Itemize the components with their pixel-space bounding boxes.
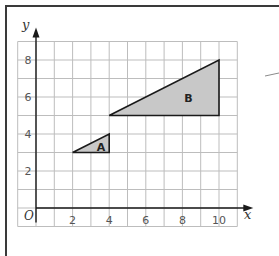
y-tick-label: 2	[25, 165, 32, 178]
x-axis-label: x	[244, 207, 251, 222]
y-axis-label: y	[22, 17, 29, 32]
x-tick-label: 2	[69, 214, 76, 227]
y-tick-label: 8	[25, 54, 32, 67]
triangle-label-b: B	[184, 92, 192, 105]
y-tick-label: 4	[25, 128, 32, 141]
x-tick-label: 10	[212, 214, 226, 227]
x-tick-label: 4	[106, 214, 113, 227]
coordinate-grid: AB 2468102468	[0, 0, 279, 256]
diagram-canvas: AB 2468102468 y x O	[0, 0, 279, 256]
origin-label: O	[24, 209, 34, 223]
y-tick-label: 6	[25, 91, 32, 104]
triangle-label-a: A	[97, 141, 106, 154]
x-tick-label: 8	[179, 214, 186, 227]
x-tick-label: 6	[142, 214, 149, 227]
pointer-line-fragment	[265, 73, 279, 76]
y-axis-arrow-icon	[33, 28, 40, 38]
